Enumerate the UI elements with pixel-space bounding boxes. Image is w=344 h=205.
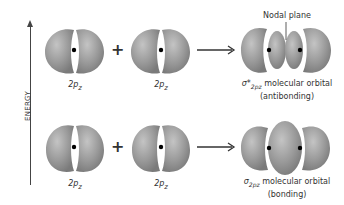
orbital-label-top-right: 2pz bbox=[146, 80, 176, 92]
orbital-diagram bbox=[0, 0, 344, 205]
reaction-arrow-bottom bbox=[197, 143, 234, 151]
energy-axis-label: ENERGY bbox=[24, 81, 32, 131]
orbital-label-bottom-left: 2pz bbox=[60, 179, 90, 191]
orbital-2pz-top-left bbox=[45, 29, 104, 73]
orbital-label-top-left: 2pz bbox=[60, 80, 90, 92]
reaction-arrow-top bbox=[197, 46, 234, 54]
orbital-antibonding bbox=[241, 22, 331, 73]
plus-sign-bottom: + bbox=[111, 137, 124, 156]
bonding-orbital-label: σ2pz molecular orbital(bonding) bbox=[232, 177, 342, 200]
antibonding-orbital-label: σ*2pz molecular orbital(antibonding) bbox=[232, 79, 342, 102]
orbital-2pz-bottom-right bbox=[132, 125, 190, 172]
orbital-2pz-top-right bbox=[131, 29, 190, 73]
orbital-label-bottom-right: 2pz bbox=[146, 179, 176, 191]
orbital-2pz-bottom-left bbox=[46, 125, 104, 172]
plus-sign-top: + bbox=[111, 40, 124, 59]
nodal-plane-label: Nodal plane bbox=[262, 11, 312, 21]
orbital-bonding bbox=[241, 121, 330, 175]
